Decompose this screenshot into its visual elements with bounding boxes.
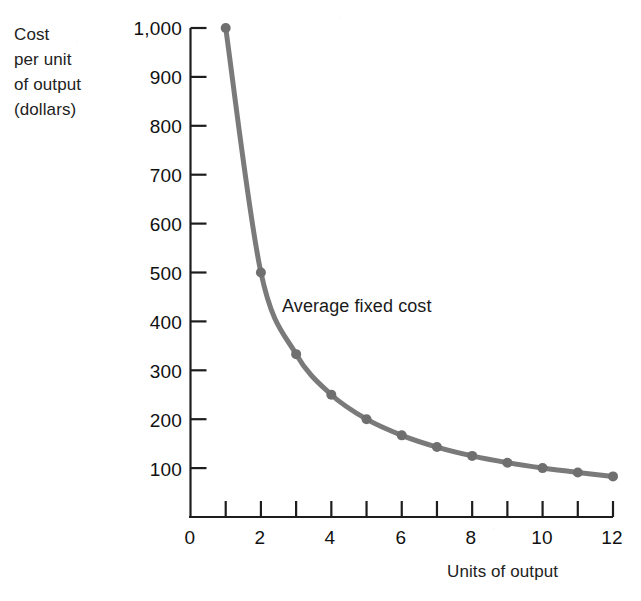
- series-line-average-fixed-cost: [226, 28, 613, 476]
- data-point-marker: [467, 451, 477, 461]
- data-point-marker: [502, 458, 512, 468]
- axes-group: [189, 28, 613, 518]
- data-point-marker: [608, 471, 618, 481]
- chart-figure: Cost per unit of output (dollars) 1,000 …: [0, 0, 641, 601]
- x-axis-ticks: [226, 501, 613, 517]
- data-point-marker: [256, 268, 266, 278]
- data-point-marker: [362, 414, 372, 424]
- data-point-marker: [432, 442, 442, 452]
- plot-area: [0, 0, 641, 601]
- y-axis-ticks: [191, 28, 207, 468]
- data-point-marker: [291, 349, 301, 359]
- data-point-marker: [326, 390, 336, 400]
- data-point-marker: [538, 463, 548, 473]
- series-markers-average-fixed-cost: [221, 23, 618, 481]
- data-point-marker: [573, 468, 583, 478]
- data-point-marker: [397, 430, 407, 440]
- data-point-marker: [221, 23, 231, 33]
